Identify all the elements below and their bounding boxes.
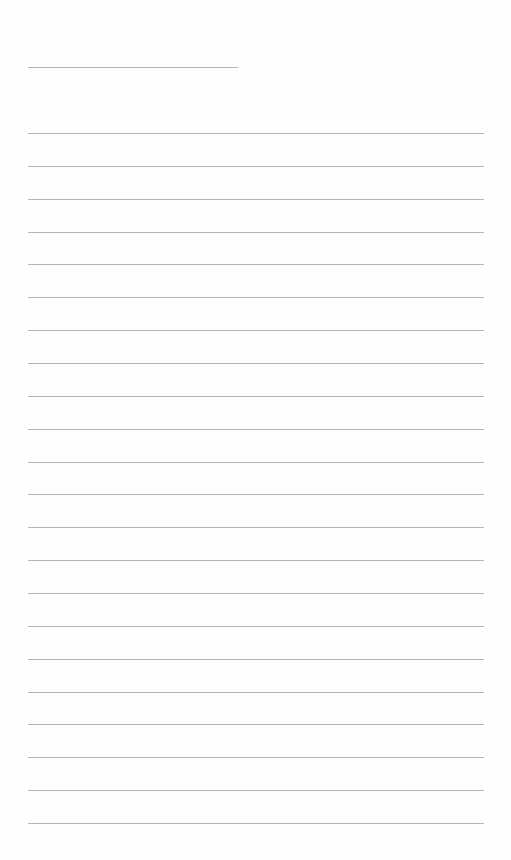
writing-line	[28, 823, 484, 824]
writing-line	[28, 757, 484, 758]
writing-line	[28, 462, 484, 463]
writing-line	[28, 527, 484, 528]
writing-line	[28, 429, 484, 430]
writing-line	[28, 494, 484, 495]
writing-line	[28, 724, 484, 725]
writing-line	[28, 790, 484, 791]
writing-line	[28, 560, 484, 561]
writing-line	[28, 396, 484, 397]
writing-lines	[28, 0, 484, 860]
writing-line	[28, 133, 484, 134]
lined-page	[0, 0, 511, 860]
writing-line	[28, 199, 484, 200]
writing-line	[28, 166, 484, 167]
writing-line	[28, 626, 484, 627]
writing-line	[28, 232, 484, 233]
writing-line	[28, 692, 484, 693]
writing-line	[28, 363, 484, 364]
writing-line	[28, 659, 484, 660]
writing-line	[28, 264, 484, 265]
writing-line	[28, 297, 484, 298]
writing-line	[28, 330, 484, 331]
writing-line	[28, 593, 484, 594]
